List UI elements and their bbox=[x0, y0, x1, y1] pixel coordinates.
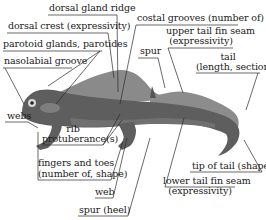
label-costal-grooves: costal grooves (number of) bbox=[137, 13, 264, 23]
hind-leg bbox=[118, 122, 136, 150]
label-spur-heel: spur (heel) bbox=[79, 205, 130, 215]
label-fingers-line1: fingers and toes bbox=[38, 158, 112, 168]
label-lower-tail-fin-seam-line2: (expressivity) bbox=[163, 186, 237, 196]
label-upper-tail-fin-seam-line2: (expressivity) bbox=[166, 36, 236, 46]
pupil bbox=[30, 101, 34, 105]
label-tail-line2: (length, section) bbox=[196, 62, 260, 72]
label-spur: spur bbox=[140, 46, 161, 56]
parotoid-gland bbox=[40, 103, 60, 113]
label-web: web bbox=[95, 187, 115, 197]
label-tip-of-tail: tip of tail (shape) bbox=[192, 161, 266, 171]
label-dorsal-gland-ridge: dorsal gland ridge bbox=[49, 3, 136, 13]
label-webs: webs bbox=[7, 111, 31, 121]
salamander-morphology-diagram: dorsal gland ridge dorsal crest (express… bbox=[0, 0, 266, 220]
label-dorsal-crest: dorsal crest (expressivity) bbox=[8, 21, 130, 31]
label-nasolabial-groove: nasolabial groove bbox=[4, 56, 87, 66]
label-fingers-line2: (number of, shape) bbox=[38, 169, 112, 179]
label-rib-line2: protuberance(s) bbox=[42, 134, 104, 144]
label-parotoid-glands: parotoid glands, parotides bbox=[3, 39, 127, 49]
